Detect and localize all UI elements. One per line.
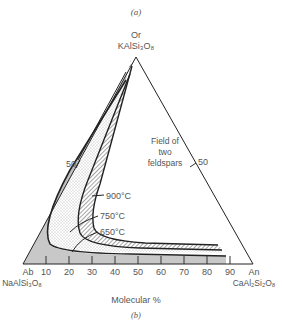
tick-80: 80 <box>202 267 212 277</box>
tick-60: 60 <box>156 267 166 277</box>
isotherm-750-label: 750°C <box>100 211 126 221</box>
corner-ab-formula: NaAlSi₃O₈ <box>2 278 42 288</box>
tick-90: 90 <box>225 267 235 277</box>
right-edge-50: 50 <box>198 157 208 167</box>
tick-50: 50 <box>133 267 143 277</box>
corner-an-formula: CaAl₂Si₂O₈ <box>233 278 276 288</box>
field-label-3: feldspars <box>148 158 183 168</box>
left-edge-50: 50 <box>66 159 76 169</box>
tick-70: 70 <box>179 267 189 277</box>
tick-30: 30 <box>87 267 97 277</box>
right-edge-tick <box>190 163 196 167</box>
corner-an-label: An <box>248 267 259 277</box>
apex-or-label: Or <box>131 30 141 40</box>
apex-or-formula: KAlSi₃O₈ <box>118 41 155 51</box>
axis-title: Molecular % <box>111 295 161 305</box>
caption-bottom: (b) <box>131 310 141 320</box>
tick-40: 40 <box>110 267 120 277</box>
isotherm-650-label: 650°C <box>100 227 126 237</box>
tick-20: 20 <box>64 267 74 277</box>
ternary-diagram: (a) Or KAlSi₃O₈ 10 20 30 40 50 60 70 80 <box>0 0 282 323</box>
caption-top: (a) <box>131 7 142 17</box>
base-tick-labels: 10 20 30 40 50 60 70 80 90 <box>41 267 235 277</box>
field-label-2: two <box>158 147 172 157</box>
isotherm-900-label: 900°C <box>106 191 132 201</box>
tick-10: 10 <box>41 267 51 277</box>
field-label-1: Field of <box>151 136 180 146</box>
corner-ab-label: Ab <box>22 267 33 277</box>
